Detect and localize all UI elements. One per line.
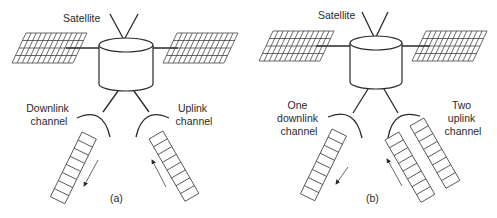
- satellite-diagram: Satellite Downlink channel Uplink channe…: [0, 0, 497, 218]
- uplink-channel-strip-1: [385, 132, 435, 202]
- downlink-dish-icon: [77, 115, 110, 137]
- downlink-arrow-icon: [336, 167, 348, 184]
- uplink-label-a: Uplink channel: [176, 102, 213, 127]
- satellite-label-b: Satellite: [318, 9, 356, 21]
- solar-panel-left: [12, 33, 87, 63]
- downlink-arrow-icon: [84, 160, 98, 186]
- downlink-label-a: Downlink channel: [26, 102, 72, 127]
- antenna-icon: [110, 14, 138, 40]
- uplink-channel-strip: [149, 131, 199, 201]
- solar-panel-left: [259, 31, 334, 61]
- downlink-channel-strip: [300, 129, 346, 201]
- downlink-channel-strip: [50, 132, 96, 204]
- satellite-body: [99, 38, 153, 91]
- solar-panel-right: [412, 31, 487, 61]
- satellite-label-a: Satellite: [63, 12, 101, 24]
- downlink-dish-icon: [328, 114, 362, 138]
- satellite-body: [350, 36, 402, 89]
- caption-a: (a): [110, 192, 123, 204]
- antenna-icon: [362, 12, 388, 39]
- panel-a: Satellite Downlink channel Uplink channe…: [12, 12, 238, 204]
- caption-b: (b): [366, 192, 379, 204]
- panel-b: Satellite One downlink channel Two uplin…: [259, 9, 487, 204]
- downlink-label-b: One downlink channel: [277, 99, 321, 137]
- uplink-label-b: Two uplink channel: [445, 99, 482, 137]
- solar-panel-right: [163, 33, 238, 63]
